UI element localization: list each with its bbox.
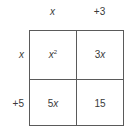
product-grid: x2 3x 5x 15 [29, 30, 124, 126]
cell-x-squared: x2 [30, 49, 76, 61]
cell-15: 15 [77, 98, 123, 110]
vertical-divider [76, 31, 77, 125]
cell-5x: 5x [30, 98, 76, 110]
cell-3x: 3x [77, 49, 123, 61]
column-header-x: x [29, 6, 76, 18]
row-header-x: x [0, 49, 24, 61]
column-header-plus-3: +3 [76, 6, 123, 18]
horizontal-divider [30, 79, 123, 80]
row-header-plus-5: +5 [0, 98, 24, 110]
